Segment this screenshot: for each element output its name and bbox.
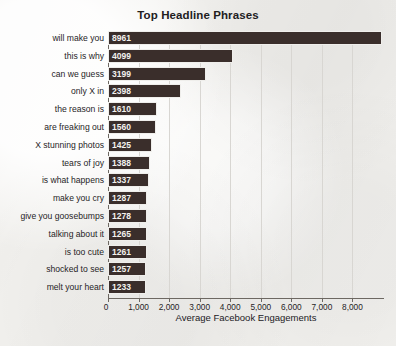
x-tick-label: 5,000 xyxy=(250,302,271,312)
bar-value-label: 3199 xyxy=(112,67,131,81)
category-label: will make you xyxy=(0,31,104,45)
bar-value-label: 2398 xyxy=(112,84,131,98)
bar-row[interactable]: 1425 xyxy=(108,138,383,152)
bar-value-label: 1287 xyxy=(112,191,131,205)
chart-title: Top Headline Phrases xyxy=(0,9,396,21)
bar-value-label: 1610 xyxy=(112,102,131,116)
bar-value-label: 1278 xyxy=(112,209,131,223)
bar[interactable] xyxy=(108,31,382,45)
category-label: give you goosebumps xyxy=(0,209,104,223)
category-label: melt your heart xyxy=(0,280,104,294)
bar-row[interactable]: 1261 xyxy=(108,245,383,259)
x-tick-label: 7,000 xyxy=(311,302,332,312)
bar-value-label: 1265 xyxy=(112,227,131,241)
bar-value-label: 1388 xyxy=(112,156,131,170)
bar-value-label: 1233 xyxy=(112,280,131,294)
bar-row[interactable]: 4099 xyxy=(108,49,383,63)
bar-row[interactable]: 1610 xyxy=(108,102,383,116)
x-tick-label: 3,000 xyxy=(189,302,210,312)
category-label: shocked to see xyxy=(0,262,104,276)
bar-row[interactable]: 1287 xyxy=(108,191,383,205)
bar-value-label: 4099 xyxy=(112,49,131,63)
x-tick-label: 2,000 xyxy=(159,302,180,312)
x-tick-label: 6,000 xyxy=(281,302,302,312)
category-label: this is why xyxy=(0,49,104,63)
category-label: is what happens xyxy=(0,173,104,187)
bar-row[interactable]: 1388 xyxy=(108,156,383,170)
bar-row[interactable]: 1337 xyxy=(108,173,383,187)
category-label: are freaking out xyxy=(0,120,104,134)
bar-row[interactable]: 1233 xyxy=(108,280,383,294)
bar-value-label: 1425 xyxy=(112,138,131,152)
y-axis-category-labels: will make youthis is whycan we guessonly… xyxy=(0,31,104,298)
category-label: is too cute xyxy=(0,245,104,259)
bar-chart: Top Headline Phrases will make youthis i… xyxy=(0,0,396,346)
bar-row[interactable]: 8961 xyxy=(108,31,383,45)
x-tick-label: 8,000 xyxy=(342,302,363,312)
plot-area: 8961409931992398161015601425138813371287… xyxy=(108,31,383,298)
bar-value-label: 8961 xyxy=(112,31,131,45)
bar-series: 8961409931992398161015601425138813371287… xyxy=(108,31,383,298)
category-label: make you cry xyxy=(0,191,104,205)
bar-value-label: 1560 xyxy=(112,120,131,134)
bar-row[interactable]: 1265 xyxy=(108,227,383,241)
bar-value-label: 1337 xyxy=(112,173,131,187)
category-label: can we guess xyxy=(0,67,104,81)
bar-row[interactable]: 1560 xyxy=(108,120,383,134)
category-label: the reason is xyxy=(0,102,104,116)
category-label: tears of joy xyxy=(0,156,104,170)
bar-row[interactable]: 3199 xyxy=(108,67,383,81)
bar-row[interactable]: 1257 xyxy=(108,262,383,276)
bar-row[interactable]: 1278 xyxy=(108,209,383,223)
x-axis-title: Average Facebook Engagements xyxy=(108,312,384,323)
x-tick-label: 4,000 xyxy=(220,302,241,312)
x-tick-label: 1,000 xyxy=(128,302,149,312)
bar-value-label: 1261 xyxy=(112,245,131,259)
bar-row[interactable]: 2398 xyxy=(108,84,383,98)
category-label: only X in xyxy=(0,84,104,98)
category-label: talking about it xyxy=(0,227,104,241)
bar-value-label: 1257 xyxy=(112,262,131,276)
x-tick-label: 0 xyxy=(104,302,109,312)
category-label: X stunning photos xyxy=(0,138,104,152)
x-axis-tick-labels: 01,0002,0003,0004,0005,0006,0007,0008,00… xyxy=(0,299,396,313)
